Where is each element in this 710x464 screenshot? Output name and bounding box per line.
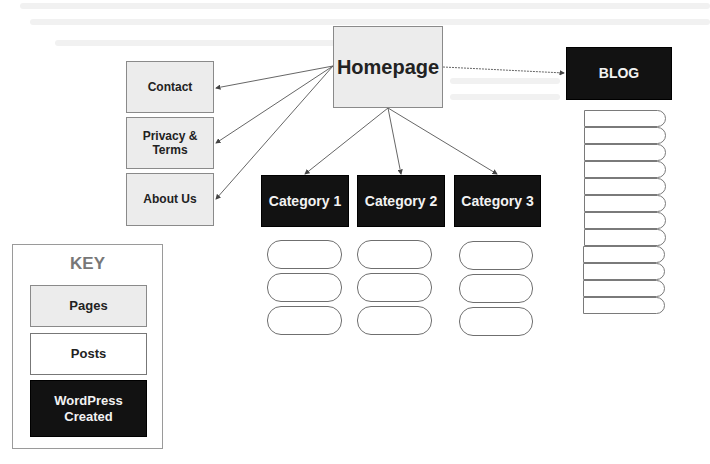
category-3-post: [459, 274, 533, 303]
category-3-post: [459, 241, 533, 270]
category-2-post: [357, 240, 432, 269]
category-3-post: [459, 307, 533, 336]
blog-post: [584, 127, 666, 144]
homepage-node: Homepage: [333, 26, 443, 108]
contact-node: Contact: [126, 61, 214, 113]
category-2-post: [357, 273, 432, 302]
category-1-post: [267, 306, 342, 335]
legend-item-wordpress-created: WordPress Created: [30, 380, 147, 437]
category-2-node: Category 2: [357, 175, 445, 227]
blog-post: [584, 178, 666, 195]
about-us-node: About Us: [126, 173, 214, 226]
blog-post: [584, 110, 666, 127]
legend-title: KEY: [13, 254, 162, 274]
blog-post: [583, 263, 665, 280]
legend-item-pages: Pages: [30, 285, 147, 327]
blog-post: [583, 297, 665, 314]
blog-post: [583, 246, 665, 263]
blog-post: [584, 229, 666, 246]
blog-post: [583, 280, 665, 297]
legend-item-posts: Posts: [30, 333, 147, 375]
blog-post: [584, 195, 666, 212]
legend: KEY Pages Posts WordPress Created: [12, 244, 163, 449]
category-1-post: [267, 240, 342, 269]
category-2-post: [357, 306, 432, 335]
category-1-post: [267, 273, 342, 302]
blog-post: [584, 144, 666, 161]
privacy-terms-node: Privacy & Terms: [126, 117, 214, 169]
blog-node: BLOG: [566, 47, 672, 100]
category-3-node: Category 3: [454, 175, 541, 227]
category-1-node: Category 1: [261, 175, 349, 227]
blog-post: [584, 212, 666, 229]
blog-post: [584, 161, 666, 178]
